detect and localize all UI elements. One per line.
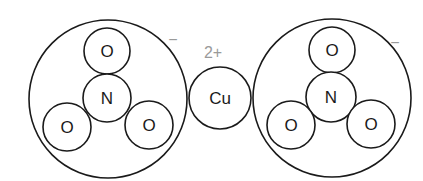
left-bottom-left-oxygen-label: O (60, 118, 73, 137)
right-top-oxygen-label: O (325, 41, 338, 60)
copper-nitrate-diagram: O N O O − Cu 2+ O N O O − (0, 0, 423, 181)
copper-charge: 2+ (204, 44, 222, 61)
copper-cation: Cu 2+ (189, 44, 251, 130)
left-ion-charge: − (168, 31, 177, 48)
left-nitrogen-label: N (101, 89, 113, 108)
left-nitrate-ion: O N O O − (29, 20, 187, 178)
left-top-oxygen-label: O (100, 42, 113, 61)
copper-label: Cu (209, 89, 231, 108)
left-bottom-right-oxygen-label: O (142, 116, 155, 135)
right-ion-charge: − (390, 34, 399, 51)
right-bottom-right-oxygen-label: O (364, 115, 377, 134)
right-nitrate-ion: O N O O − (253, 19, 411, 177)
right-nitrogen-label: N (325, 88, 337, 107)
right-bottom-left-oxygen-label: O (284, 116, 297, 135)
